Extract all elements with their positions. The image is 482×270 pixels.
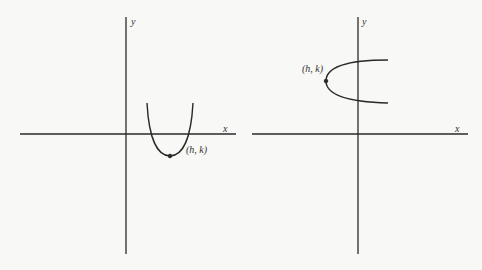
parabola-diagrams: y x (h, k) y x (h, k) — [0, 0, 482, 270]
diagram-canvas: y x (h, k) y x (h, k) — [0, 0, 482, 270]
right-y-label: y — [361, 16, 367, 27]
left-graph — [20, 17, 236, 254]
right-vertex-label: (h, k) — [302, 63, 324, 75]
left-x-label: x — [222, 123, 228, 134]
right-x-label: x — [454, 123, 460, 134]
right-parabola-curve — [326, 60, 388, 103]
left-vertex-label: (h, k) — [186, 144, 208, 156]
left-y-label: y — [130, 16, 136, 27]
right-graph — [252, 17, 468, 254]
right-vertex-point — [324, 79, 328, 83]
left-vertex-point — [168, 154, 172, 158]
